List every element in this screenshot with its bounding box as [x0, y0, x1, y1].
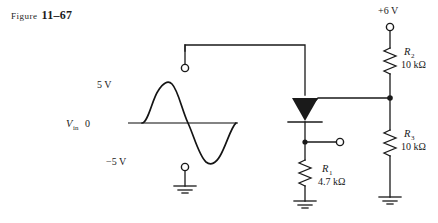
r2-zigzag-icon: [384, 48, 396, 74]
waveform-trough-label: −5 V: [106, 156, 127, 167]
circuit-schematic: 5 V −5 V V in 0: [0, 0, 438, 223]
waveform-zero-label: 0: [85, 118, 90, 129]
input-terminal-top-icon[interactable]: [181, 64, 188, 71]
r3-zigzag-icon: [384, 130, 396, 156]
resistor-r3-group: R 3 10 kΩ: [379, 98, 426, 204]
resistor-r2-group: R 2 10 kΩ: [384, 46, 426, 98]
anode-signal-wire-group: [181, 45, 305, 95]
scr-thyristor-symbol: [288, 98, 390, 142]
output-terminal-icon[interactable]: [336, 138, 343, 145]
r1-value-label: 4.7 kΩ: [318, 176, 345, 187]
r1-zigzag-icon: [299, 160, 311, 186]
r2-value-label: 10 kΩ: [401, 59, 426, 70]
ground-symbol-r3-icon: [379, 197, 401, 204]
scr-gate-lead: [305, 98, 390, 112]
input-return-terminal-group: [174, 163, 196, 193]
r1-ref-label: R: [321, 163, 329, 174]
r3-ref-label: R: [403, 128, 411, 139]
input-source-sublabel: in: [73, 124, 79, 132]
resistor-r1-group: R 1 4.7 kΩ: [294, 142, 345, 208]
ground-symbol-r1-icon: [294, 201, 316, 208]
input-terminal-bottom-icon[interactable]: [181, 163, 188, 170]
output-terminal-group: [302, 138, 343, 145]
supply-terminal-group: +6 V: [378, 5, 399, 48]
figure-container: Figure11–67 5 V −5 V V in 0: [0, 0, 438, 223]
input-waveform-group: 5 V −5 V V in 0: [66, 79, 238, 167]
r3-value-label: 10 kΩ: [401, 141, 426, 152]
r2-ref-label: R: [403, 46, 411, 57]
supply-terminal-icon[interactable]: [386, 23, 393, 30]
waveform-peak-label: 5 V: [97, 79, 112, 90]
ground-symbol-input-icon: [174, 186, 196, 193]
supply-voltage-label: +6 V: [378, 5, 399, 16]
top-signal-wire: [185, 45, 305, 95]
